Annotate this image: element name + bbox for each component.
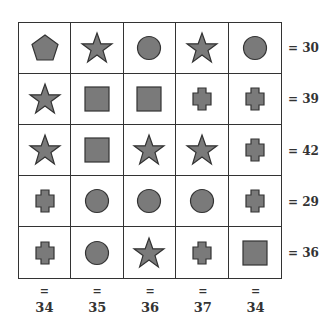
star-icon [132,236,166,270]
grid-cell [229,227,281,278]
equals-sign: = [183,286,223,298]
column-sum-value: 35 [77,300,117,316]
grid-cell [229,23,281,74]
grid-cell [124,227,176,278]
grid-cell [229,125,281,176]
star-icon [185,133,219,167]
equals-sign: = [24,286,64,298]
equals-sign: = [130,286,170,298]
square-icon [80,82,114,116]
column-sum: =34 [24,286,64,316]
grid-cell [71,23,123,74]
grid-cell [124,125,176,176]
circle-icon [132,184,166,218]
grid-cell [176,176,228,227]
grid-cell [124,23,176,74]
column-sum: =34 [236,286,276,316]
star-icon [28,133,62,167]
grid-cell [176,227,228,278]
grid-cell [124,74,176,125]
star-icon [28,82,62,116]
equals-sign: = [236,286,276,298]
cross-icon [28,184,62,218]
grid-cell [176,125,228,176]
cross-icon [238,184,272,218]
grid-cell [229,176,281,227]
pentagon-icon [28,31,62,65]
row-sum-label: = 30 [288,38,319,58]
column-sum: =35 [77,286,117,316]
square-icon [132,82,166,116]
grid-cell [176,23,228,74]
circle-icon [80,236,114,270]
star-icon [185,31,219,65]
grid-cell [229,74,281,125]
puzzle-grid [18,22,282,279]
circle-icon [185,184,219,218]
cross-icon [28,236,62,270]
grid-cell [19,227,71,278]
grid-cell [71,74,123,125]
circle-icon [132,31,166,65]
row-sum-label: = 36 [288,243,319,263]
grid-cell [124,176,176,227]
square-icon [80,133,114,167]
grid-cell [19,23,71,74]
cross-icon [238,82,272,116]
star-icon [80,31,114,65]
row-sum-label: = 39 [288,89,319,109]
cross-icon [238,133,272,167]
column-sum-value: 34 [236,300,276,316]
star-icon [132,133,166,167]
column-sum-value: 37 [183,300,223,316]
grid-cell [19,176,71,227]
row-sum-label: = 42 [288,141,319,161]
cross-icon [185,236,219,270]
grid-cell [19,125,71,176]
equals-sign: = [77,286,117,298]
grid-cell [71,176,123,227]
circle-icon [80,184,114,218]
grid-cell [71,227,123,278]
column-sum: =37 [183,286,223,316]
circle-icon [238,31,272,65]
grid-cell [176,74,228,125]
cross-icon [185,82,219,116]
grid-cell [71,125,123,176]
column-sum-value: 34 [24,300,64,316]
square-icon [238,236,272,270]
column-sum: =36 [130,286,170,316]
grid-cell [19,74,71,125]
row-sum-label: = 29 [288,192,319,212]
column-sum-value: 36 [130,300,170,316]
